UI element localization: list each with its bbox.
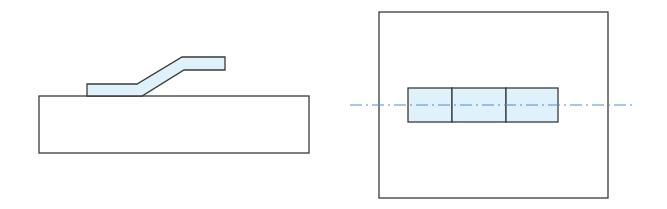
- base-plate: [39, 96, 309, 153]
- side-view: [39, 57, 309, 153]
- top-view: [350, 12, 633, 198]
- drawing-canvas: [0, 0, 667, 209]
- bent-strip: [87, 57, 225, 96]
